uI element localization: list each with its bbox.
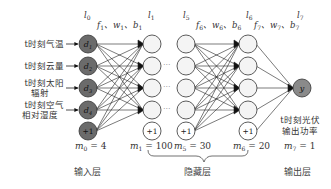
hidden-layer-name: 隐藏层 (184, 165, 211, 178)
layer-tag-l0: l0 (84, 10, 91, 21)
layer-tag-l1: l1 (148, 10, 155, 21)
h6-node-2 (239, 57, 257, 75)
m1-label: m1 = 100 (130, 141, 173, 152)
layer-tag-l6: l6 (246, 10, 253, 21)
h1-node-2 (143, 57, 161, 75)
input-arrows (66, 44, 78, 110)
input-label-humidity: t时刻空气相对湿度 (2, 100, 64, 120)
h1-node-1 (143, 35, 161, 53)
output-layer-name: 输出层 (284, 165, 311, 178)
input-label-radiation: t时刻太阳辐射 (2, 78, 64, 98)
param-label-7: f7、w7、b7 (254, 18, 299, 31)
m6-label: m6 = 20 (233, 141, 270, 152)
h5-node-3 (177, 79, 195, 97)
input-bias-label: +1 (82, 127, 93, 136)
output-label: t时刻光伏 输出功率 (275, 115, 325, 137)
h6-node-1 (239, 35, 257, 53)
param-label-6: f6、w6、b6 (196, 18, 241, 31)
h5-node-4 (177, 101, 195, 119)
input-layer-name: 输入层 (74, 165, 101, 178)
h5-node-2 (177, 57, 195, 75)
ellipsis-1: ··· (163, 60, 171, 69)
m5-label: m5 = 30 (174, 141, 211, 152)
layer-tag-l5: l5 (183, 10, 190, 21)
input-label-temperature: t时刻气温 (2, 39, 64, 49)
h6-node-3 (239, 79, 257, 97)
input-label-cloud: t时刻云量 (2, 61, 64, 71)
output-node-label: y (299, 84, 305, 93)
h6-bias-label: +1 (242, 127, 253, 136)
param-label-1: f1、w1、b1 (97, 18, 142, 31)
h1-node-4 (143, 101, 161, 119)
h6-node-4 (239, 101, 257, 119)
ellipsis-2: ··· (163, 82, 171, 91)
m7-label: m7 = 1 (284, 141, 315, 152)
layer-tag-l7: l7 (297, 10, 304, 21)
h1-bias-label: +1 (146, 127, 157, 136)
m0-label: m0 = 4 (75, 141, 106, 152)
h1-node-3 (143, 79, 161, 97)
h5-node-1 (177, 35, 195, 53)
h5-bias-label: +1 (180, 127, 191, 136)
ellipsis-3: ··· (163, 104, 171, 113)
